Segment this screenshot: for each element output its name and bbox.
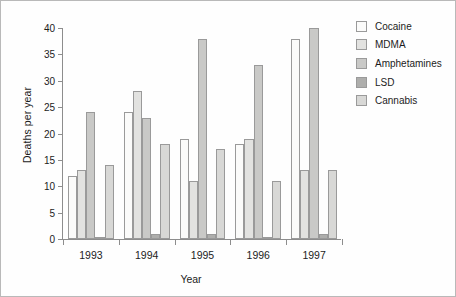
legend-swatch-mdma (356, 39, 367, 50)
x-tick-mark (342, 239, 343, 245)
bar-cannabis-1995 (216, 149, 225, 239)
bar-lsd-1997 (319, 234, 328, 239)
bar-mdma-1994 (133, 91, 142, 239)
legend-label: Amphetamines (375, 58, 442, 69)
bar-lsd-1995 (207, 234, 216, 239)
y-tick-label: 25 (44, 102, 55, 113)
y-tick-mark (58, 28, 63, 29)
y-axis-label: Deaths per year (21, 55, 33, 195)
bar-amphetamines-1995 (198, 39, 207, 239)
x-tick-mark (230, 239, 231, 245)
bar-amphetamines-1996 (254, 65, 263, 239)
y-tick-label: 40 (44, 23, 55, 34)
x-tick-label: 1997 (302, 249, 325, 261)
bar-mdma-1997 (300, 170, 309, 239)
legend-item-cocaine: Cocaine (356, 17, 456, 36)
legend-swatch-cocaine (356, 21, 367, 32)
bar-group-1994 (124, 29, 170, 239)
x-tick-mark (119, 239, 120, 245)
legend-label: Cocaine (375, 21, 412, 32)
bar-mdma-1995 (189, 181, 198, 239)
y-tick-mark (58, 134, 63, 135)
bar-cocaine-1994 (124, 112, 133, 239)
bar-cannabis-1993 (105, 165, 114, 239)
y-tick-label: 0 (49, 234, 55, 245)
legend-swatch-lsd (356, 77, 367, 88)
legend-label: MDMA (375, 39, 406, 50)
y-tick-mark (58, 213, 63, 214)
y-tick-label: 15 (44, 154, 55, 165)
legend-swatch-amphetamines (356, 58, 367, 69)
bar-group-1995 (180, 29, 226, 239)
legend-item-cannabis: Cannabis (356, 91, 456, 110)
bar-group-1997 (291, 29, 337, 239)
x-tick-label: 1996 (247, 249, 270, 261)
y-tick-label: 10 (44, 181, 55, 192)
bar-cocaine-1995 (180, 139, 189, 239)
y-tick-label: 20 (44, 128, 55, 139)
legend-label: Cannabis (375, 95, 417, 106)
bar-group-1996 (235, 29, 281, 239)
x-tick-label: 1993 (79, 249, 102, 261)
y-tick-mark (58, 186, 63, 187)
bar-lsd-1994 (151, 234, 160, 239)
y-tick-label: 30 (44, 75, 55, 86)
x-axis-label: Year (1, 273, 381, 285)
legend-item-mdma: MDMA (356, 36, 456, 55)
chart-legend: CocaineMDMAAmphetaminesLSDCannabis (356, 17, 456, 110)
y-tick-mark (58, 54, 63, 55)
bar-cannabis-1996 (272, 181, 281, 239)
x-tick-mark (63, 239, 64, 245)
bar-mdma-1993 (77, 170, 86, 239)
chart-figure: Deaths per year 0510152025303540 1993199… (0, 0, 456, 297)
x-tick-mark (286, 239, 287, 245)
bar-cannabis-1994 (160, 144, 169, 239)
bar-mdma-1996 (244, 139, 253, 239)
y-tick-mark (58, 81, 63, 82)
bar-group-1993 (68, 29, 114, 239)
legend-label: LSD (375, 77, 394, 88)
x-tick-label: 1995 (191, 249, 214, 261)
legend-swatch-cannabis (356, 95, 367, 106)
y-tick-mark (58, 160, 63, 161)
bar-amphetamines-1997 (309, 28, 318, 239)
x-tick-mark (175, 239, 176, 245)
y-tick-mark (58, 107, 63, 108)
bar-cocaine-1997 (291, 39, 300, 239)
y-tick-label: 5 (49, 207, 55, 218)
x-tick-label: 1994 (135, 249, 158, 261)
bar-lsd-1993 (95, 237, 104, 239)
legend-item-amphetamines: Amphetamines (356, 54, 456, 73)
bar-cocaine-1993 (68, 176, 77, 239)
bar-cannabis-1997 (328, 170, 337, 239)
bar-amphetamines-1994 (142, 118, 151, 239)
bar-lsd-1996 (263, 237, 272, 239)
bar-cocaine-1996 (235, 144, 244, 239)
bar-amphetamines-1993 (86, 112, 95, 239)
legend-item-lsd: LSD (356, 73, 456, 92)
y-tick-label: 35 (44, 49, 55, 60)
plot-area: 0510152025303540 19931994199519961997 (62, 29, 341, 240)
